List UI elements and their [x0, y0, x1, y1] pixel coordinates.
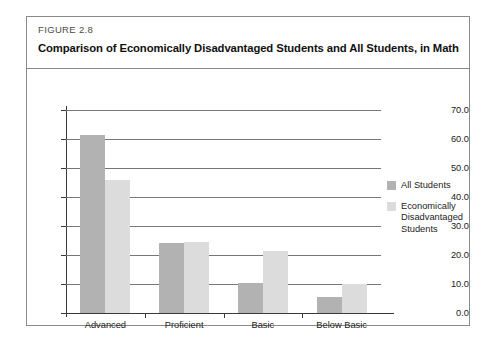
x-axis-label-below-basic: Below Basic [302, 320, 381, 330]
bar-advanced-all-students [80, 135, 105, 313]
gridline [66, 168, 381, 169]
x-axis-label-proficient: Proficient [145, 320, 224, 330]
legend-swatch-disadvantaged [387, 202, 396, 211]
bar-basic-all-students [238, 283, 263, 313]
legend-swatch-all-students [387, 181, 396, 190]
chart-body: 70.060.050.040.030.020.010.00.0 Advanced… [27, 70, 469, 326]
figure-frame: FIGURE 2.8 Comparison of Economically Di… [26, 16, 470, 326]
gridline [66, 110, 381, 111]
bar-basic-disadvantaged [263, 251, 288, 313]
bar-proficient-all-students [159, 243, 184, 313]
x-axis-label-advanced: Advanced [66, 320, 145, 330]
legend-label-all-students: All Students [401, 180, 471, 192]
bar-below-basic-all-students [317, 297, 342, 313]
x-axis-label-basic: Basic [224, 320, 303, 330]
bar-proficient-disadvantaged [184, 242, 209, 313]
x-axis-line [62, 313, 394, 314]
bar-below-basic-disadvantaged [342, 284, 367, 313]
x-axis-tick [145, 313, 146, 318]
legend-entry-all-students: All Students [387, 180, 471, 192]
figure-title: Comparison of Economically Disadvantaged… [38, 41, 469, 56]
figure-header: FIGURE 2.8 Comparison of Economically Di… [27, 17, 469, 69]
bar-advanced-disadvantaged [105, 180, 130, 313]
legend-label-disadvantaged: Economically Disadvantaged Students [401, 201, 471, 236]
plot-area [66, 110, 381, 313]
x-axis-tick [224, 313, 225, 318]
y-axis-tick-label: 20.0 [435, 251, 469, 260]
figure-number-label: FIGURE 2.8 [38, 23, 469, 36]
y-axis-tick-label: 50.0 [435, 164, 469, 173]
gridline [66, 139, 381, 140]
legend-entry-disadvantaged: Economically Disadvantaged Students [387, 201, 471, 236]
y-axis-tick-label: 0.0 [435, 309, 469, 318]
y-axis-tick-label: 10.0 [435, 280, 469, 289]
y-axis-tick-label: 60.0 [435, 135, 469, 144]
chart-legend: All Students Economically Disadvantaged … [387, 180, 471, 244]
x-axis-tick [302, 313, 303, 318]
y-axis-tick-label: 70.0 [435, 106, 469, 115]
